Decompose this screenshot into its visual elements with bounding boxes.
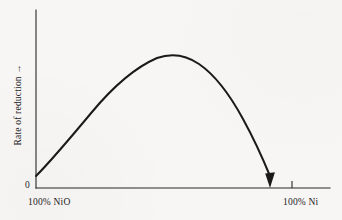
x-axis-label-left: 100% NiO [28, 198, 71, 208]
y-axis-title: Rate of reduction → [14, 53, 24, 157]
curve-terminus-arrowhead [265, 172, 275, 188]
chart-canvas [0, 0, 342, 220]
reduction-rate-curve [36, 55, 270, 176]
figure-container: 0 100% NiO 100% Ni Rate of reduction → [0, 0, 342, 220]
y-axis-zero-label: 0 [25, 181, 30, 191]
x-axis-label-right: 100% Ni [283, 198, 318, 208]
